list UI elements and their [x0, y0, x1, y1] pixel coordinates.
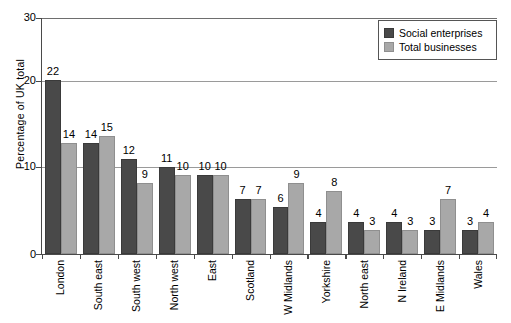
bar-value-label: 3 — [429, 216, 435, 227]
x-label-cell: South east — [79, 260, 117, 322]
bar-group: 77 — [232, 18, 270, 254]
bar-value-label: 3 — [467, 216, 473, 227]
bar: 8 — [326, 191, 342, 254]
bar-value-label: 10 — [199, 161, 211, 172]
bar: 4 — [478, 222, 494, 254]
x-label-cell: Wales — [459, 260, 497, 322]
bar: 10 — [175, 175, 191, 254]
bar: 3 — [424, 230, 440, 254]
x-label-cell: London — [41, 260, 79, 322]
x-tick-mark — [232, 254, 233, 259]
x-axis-category-label: W Midlands — [283, 260, 294, 315]
x-tick-mark — [345, 254, 346, 259]
bar: 15 — [99, 136, 115, 255]
x-label-cell: W Midlands — [269, 260, 307, 322]
x-label-cell: Scotland — [231, 260, 269, 322]
y-tick-label-30: 30 — [2, 12, 36, 23]
x-tick-mark — [421, 254, 422, 259]
x-axis-category-label: Wales — [473, 260, 484, 289]
bar: 11 — [159, 167, 175, 254]
x-axis-category-label: N Ireland — [397, 260, 408, 303]
bar-group: 129 — [118, 18, 156, 254]
legend-item-social-enterprises: Social enterprises — [384, 27, 491, 39]
bar-value-label: 7 — [240, 185, 246, 196]
bar: 6 — [273, 207, 289, 254]
bar-value-label: 3 — [369, 216, 375, 227]
x-axis-category-label: North east — [359, 260, 370, 308]
bar-value-label: 4 — [353, 208, 359, 219]
x-axis-category-label: East — [207, 260, 218, 281]
bar: 7 — [440, 199, 456, 254]
bar-group: 1010 — [194, 18, 232, 254]
bar: 7 — [251, 199, 267, 254]
light-swatch-icon — [384, 42, 394, 52]
bar: 10 — [213, 175, 229, 254]
bar-group: 69 — [270, 18, 308, 254]
x-axis-category-label: Scotland — [245, 260, 256, 301]
bar-value-label: 9 — [293, 169, 299, 180]
bar: 14 — [83, 143, 99, 254]
bar: 3 — [462, 230, 478, 254]
x-axis-category-label: South west — [131, 260, 142, 312]
bar: 9 — [137, 183, 153, 254]
x-axis-category-label: South east — [93, 260, 104, 310]
bar: 9 — [288, 183, 304, 254]
legend-item-total-businesses: Total businesses — [384, 41, 491, 53]
bar-value-label: 11 — [161, 153, 172, 164]
x-label-cell: East — [193, 260, 231, 322]
x-label-cell: South west — [117, 260, 155, 322]
bar-group: 48 — [307, 18, 345, 254]
x-axis-category-label: London — [55, 260, 66, 295]
x-label-cell: N Ireland — [383, 260, 421, 322]
bar: 7 — [235, 199, 251, 254]
y-tick-label-0: 0 — [2, 249, 36, 260]
y-tick-label-10: 10 — [2, 161, 36, 172]
x-tick-mark — [194, 254, 195, 259]
bar-value-label: 4 — [391, 208, 397, 219]
x-label-cell: North west — [155, 260, 193, 322]
bar: 4 — [348, 222, 364, 254]
bar-value-label: 14 — [85, 129, 97, 140]
bar: 4 — [310, 222, 326, 254]
bar-value-label: 3 — [407, 216, 413, 227]
x-tick-mark — [156, 254, 157, 259]
x-tick-mark — [496, 254, 497, 259]
bar-group: 1110 — [156, 18, 194, 254]
x-axis-category-label: Yorkshire — [321, 260, 332, 303]
x-tick-mark — [383, 254, 384, 259]
dark-swatch-icon — [384, 28, 394, 38]
x-tick-mark — [307, 254, 308, 259]
bar: 4 — [386, 222, 402, 254]
bar: 3 — [364, 230, 380, 254]
x-label-cell: Yorkshire — [307, 260, 345, 322]
bar: 14 — [61, 143, 77, 254]
bar-value-label: 4 — [483, 208, 489, 219]
bar-value-label: 14 — [63, 129, 75, 140]
bar: 10 — [197, 175, 213, 254]
x-axis-labels: LondonSouth eastSouth westNorth westEast… — [41, 260, 497, 322]
bar-chart: Percentage of UK total 30 20 10 0 221414… — [0, 0, 511, 323]
x-axis-category-label: E Midlands — [435, 260, 446, 312]
x-tick-mark — [459, 254, 460, 259]
bar: 22 — [45, 80, 61, 254]
y-tick-label-20: 20 — [2, 75, 36, 86]
bar-value-label: 4 — [315, 208, 321, 219]
bar-value-label: 10 — [214, 161, 226, 172]
bar-value-label: 7 — [445, 185, 451, 196]
x-label-cell: North east — [345, 260, 383, 322]
bar-value-label: 12 — [123, 145, 135, 156]
bar-group: 1415 — [80, 18, 118, 254]
bar: 3 — [402, 230, 418, 254]
bar-value-label: 15 — [101, 122, 113, 133]
bar-value-label: 7 — [255, 185, 261, 196]
x-tick-mark — [118, 254, 119, 259]
bar-value-label: 6 — [277, 193, 283, 204]
chart-legend: Social enterprises Total businesses — [378, 20, 497, 60]
x-tick-mark — [42, 254, 43, 259]
legend-label-total-businesses: Total businesses — [399, 41, 477, 53]
legend-label-social-enterprises: Social enterprises — [399, 27, 482, 39]
x-tick-mark — [270, 254, 271, 259]
bar: 12 — [121, 159, 137, 254]
x-label-cell: E Midlands — [421, 260, 459, 322]
bar-value-label: 8 — [331, 177, 337, 188]
